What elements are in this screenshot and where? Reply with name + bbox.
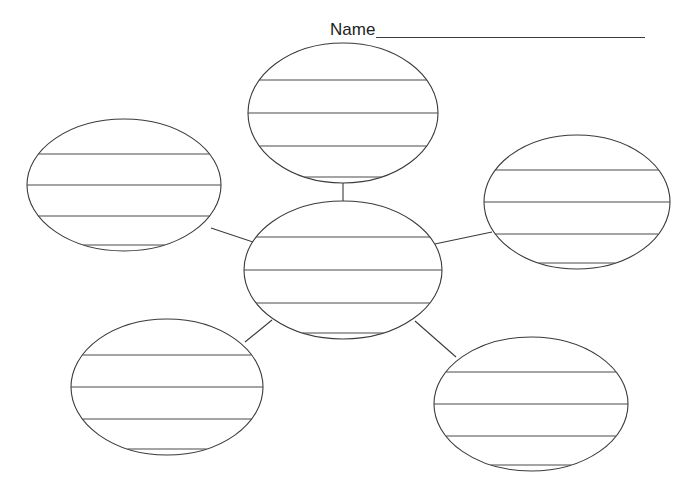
connector-center-to-left [211, 228, 256, 243]
connector-center-to-bottom-right [415, 321, 456, 357]
center-bubble[interactable] [244, 201, 442, 339]
top-bubble[interactable] [248, 43, 438, 183]
web-diagram [0, 0, 696, 503]
worksheet-page: Name [0, 0, 696, 503]
connector-center-to-right [430, 232, 492, 245]
node-layer [27, 43, 670, 471]
bottom-left-bubble[interactable] [71, 319, 263, 455]
left-bubble[interactable] [27, 119, 221, 251]
connector-center-to-bottom-left [245, 320, 272, 342]
right-bubble[interactable] [484, 135, 670, 269]
bottom-right-bubble[interactable] [434, 337, 628, 471]
